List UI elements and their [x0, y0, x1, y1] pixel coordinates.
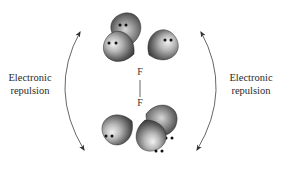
left-repulsion-arrow	[65, 32, 84, 150]
right-repulsion-arrow	[197, 32, 216, 150]
bottom-lone-pair-left	[97, 108, 140, 150]
left-label-line1: Electronic	[0, 71, 60, 84]
top-lone-pair-right	[140, 24, 183, 67]
right-label-line2: repulsion	[221, 84, 281, 97]
fluorine-atom-bottom: F	[134, 97, 146, 108]
left-repulsion-label: Electronic repulsion	[0, 71, 60, 97]
left-label-line2: repulsion	[0, 84, 60, 97]
right-repulsion-label: Electronic repulsion	[221, 71, 281, 97]
f2-lone-pair-repulsion-diagram: F F Electronic repulsion Electronic repu…	[0, 0, 281, 170]
fluorine-atom-top: F	[134, 66, 146, 77]
bottom-lone-pair-front-electrons	[155, 150, 164, 153]
right-label-line1: Electronic	[221, 71, 281, 84]
